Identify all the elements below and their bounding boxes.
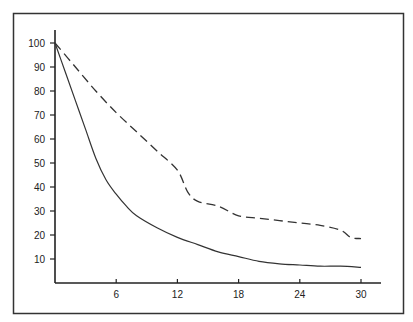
y-tick-label: 30 (34, 206, 46, 217)
y-tick-label: 50 (34, 158, 46, 169)
y-tick-label: 40 (34, 182, 46, 193)
y-tick-label: 20 (34, 230, 46, 241)
y-tick-label: 60 (34, 134, 46, 145)
x-tick-label: 30 (355, 289, 367, 300)
x-tick-label: 18 (233, 289, 245, 300)
y-tick-label: 100 (28, 38, 45, 49)
y-tick-label: 90 (34, 62, 46, 73)
y-tick-label: 10 (34, 254, 46, 265)
y-tick-label: 80 (34, 86, 46, 97)
x-tick-label: 6 (113, 289, 119, 300)
chart-frame (14, 14, 404, 314)
x-tick-label: 12 (172, 289, 184, 300)
x-tick-label: 24 (294, 289, 306, 300)
y-tick-label: 70 (34, 110, 46, 121)
chart: 102030405060708090100 612182430 (0, 0, 413, 322)
